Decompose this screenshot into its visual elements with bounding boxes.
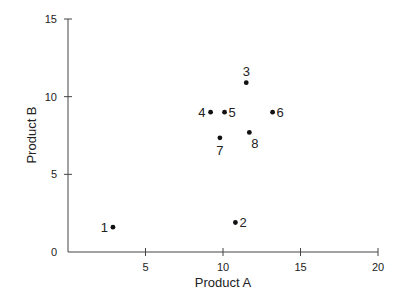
y-tick-label: 0 [51,246,57,258]
y-tick-label: 15 [45,13,57,25]
x-tick-label: 20 [372,261,384,273]
data-point-label: 1 [101,220,108,235]
data-point-label: 3 [243,64,250,79]
data-point-label: 4 [198,105,205,120]
axes: 5101520051015 [45,13,384,273]
y-axis-label: Product B [24,106,39,163]
data-point-marker [247,130,252,135]
data-point-marker [208,110,213,115]
scatter-chart: 5101520051015 12345678 Product A Product… [0,0,403,303]
x-tick-label: 15 [294,261,306,273]
data-point-label: 6 [277,105,284,120]
y-tick-label: 10 [45,91,57,103]
data-point-label: 8 [251,136,258,151]
x-axis-label: Product A [195,275,252,290]
data-point-marker [244,80,249,85]
data-point-marker [233,220,238,225]
chart-canvas: 5101520051015 12345678 Product A Product… [0,0,403,303]
data-point-marker [222,110,227,115]
data-point-label: 7 [216,143,223,158]
data-point-marker [218,135,223,140]
y-tick-label: 5 [51,168,57,180]
data-point-label: 2 [239,215,246,230]
data-point-label: 5 [229,105,236,120]
x-tick-label: 5 [142,261,148,273]
data-point-marker [111,225,116,230]
data-points: 12345678 [101,64,284,235]
data-point-marker [270,110,275,115]
x-tick-label: 10 [217,261,229,273]
